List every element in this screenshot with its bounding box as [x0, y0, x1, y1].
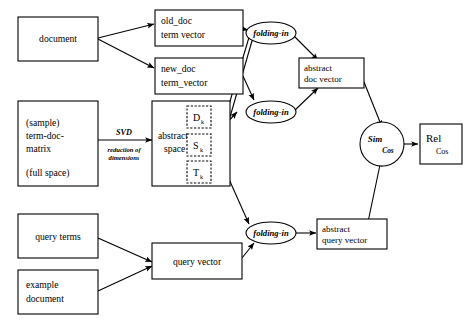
node-folding-in-top-label: folding-in	[253, 28, 289, 38]
edge-folding-in-mid-to-abstract-doc-vector	[294, 88, 318, 111]
edge-document-to-old-doc	[98, 24, 154, 38]
node-folding-in-top[interactable]: folding-in	[246, 22, 296, 44]
node-abstract-doc-vector-line2: doc vector	[304, 74, 342, 84]
node-term-doc-matrix[interactable]: (sample) term-doc- matrix (full space)	[18, 101, 98, 186]
node-matrix-s-symbol: S	[193, 140, 199, 151]
edge-query-terms-to-query-vector	[98, 238, 152, 262]
node-abstract-doc-vector[interactable]: abstract doc vector	[299, 58, 364, 88]
node-matrix-t[interactable]: T k	[187, 161, 211, 183]
edge-example-document-to-query-vector	[98, 266, 152, 291]
node-old-doc-line2: term vector	[161, 29, 206, 40]
edge-query-vector-to-folding-in-bottom	[242, 243, 254, 258]
node-abstract-query-vector[interactable]: abstract query vector	[317, 219, 387, 249]
node-folding-in-mid-label: folding-in	[253, 107, 289, 117]
node-document[interactable]: document	[18, 17, 98, 61]
node-matrix-t-symbol: T	[193, 167, 199, 178]
edge-folding-in-top-to-abstract-doc-vector	[294, 36, 318, 60]
node-sim-cos[interactable]: Sim Cos	[360, 122, 404, 166]
node-term-doc-matrix-line1: (sample)	[26, 117, 60, 129]
node-matrix-d-symbol: D	[193, 112, 200, 123]
node-new-doc-line2: term_vector	[161, 77, 208, 88]
edge-new-doc-to-folding-in-mid	[243, 76, 254, 100]
edge-label-reduction-line1: reduction of	[107, 146, 141, 153]
node-abstract-space-line1: abstract	[158, 130, 188, 141]
edge-label-reduction-line2: dimensions	[109, 154, 140, 161]
edge-document-to-new-doc	[98, 39, 154, 68]
diagram-canvas: document old_doc term vector new_doc ter…	[0, 0, 472, 331]
node-new-doc-term-vector[interactable]: new_doc term_vector	[155, 58, 243, 94]
node-query-vector[interactable]: query vector	[152, 243, 242, 279]
node-folding-in-bottom[interactable]: folding-in	[246, 222, 296, 244]
node-query-terms-label: query terms	[35, 231, 81, 242]
node-example-document[interactable]: example document	[18, 270, 98, 314]
node-abstract-space-line2: space	[164, 143, 185, 154]
node-new-doc-line1: new_doc	[161, 63, 196, 74]
node-sim-cos-line2: Cos	[382, 146, 394, 155]
node-example-document-line2: document	[26, 293, 64, 304]
edge-abstract-query-vector-to-sim-cos	[368, 160, 381, 222]
node-sim-cos-line1: Sim	[368, 134, 383, 144]
node-matrix-d[interactable]: D k	[187, 106, 211, 128]
node-abstract-query-vector-line2: query vector	[322, 235, 367, 245]
node-old-doc-term-vector[interactable]: old_doc term vector	[155, 10, 243, 46]
node-abstract-query-vector-line1: abstract	[322, 224, 350, 234]
node-term-doc-matrix-line2: term-doc-	[26, 130, 64, 141]
edge-label-svd: SVD	[116, 128, 132, 137]
node-query-terms[interactable]: query terms	[18, 214, 98, 258]
node-abstract-doc-vector-line1: abstract	[304, 63, 332, 73]
node-document-label: document	[39, 33, 77, 44]
node-query-vector-label: query vector	[173, 256, 222, 267]
edge-abstract-doc-vector-to-sim-cos	[364, 82, 382, 127]
node-rel-cos[interactable]: Rel Cos	[420, 124, 462, 164]
node-folding-in-bottom-label: folding-in	[253, 228, 289, 238]
node-folding-in-mid[interactable]: folding-in	[246, 101, 296, 123]
node-old-doc-line1: old_doc	[161, 15, 192, 26]
node-rel-cos-line2: Cos	[436, 147, 448, 156]
node-term-doc-matrix-line4: (full space)	[26, 167, 69, 179]
node-rel-cos-line1: Rel	[426, 132, 441, 144]
node-matrix-s[interactable]: S k	[187, 134, 211, 156]
node-term-doc-matrix-line3: matrix	[26, 143, 51, 154]
node-example-document-line1: example	[26, 279, 59, 290]
lsi-flow-diagram: document old_doc term vector new_doc ter…	[0, 0, 472, 331]
